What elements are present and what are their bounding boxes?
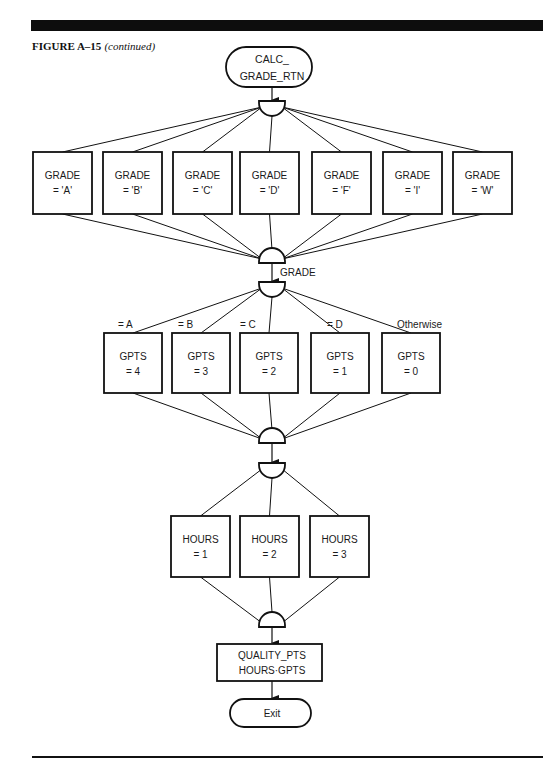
split-junction-gpts — [259, 282, 285, 297]
case-condition-label: = B — [178, 319, 194, 330]
case-branch-line — [282, 288, 411, 333]
exit-label: Exit — [264, 708, 281, 719]
grade-check-box — [33, 152, 92, 214]
case-merge-line — [133, 393, 262, 439]
gpts-value: = 2 — [262, 366, 277, 377]
branch-line — [282, 107, 413, 152]
gpts-box — [104, 333, 162, 393]
case-condition-label: = D — [327, 319, 343, 330]
hours-branch-line — [201, 469, 263, 516]
gpts-value: = 0 — [404, 366, 419, 377]
hours-branch-line — [282, 469, 340, 516]
grade-check-label: GRADE — [324, 170, 360, 181]
start-label-line2: GRADE_RTN — [240, 70, 305, 82]
hours-label: HOURS — [321, 534, 357, 545]
case-condition-label: Otherwise — [397, 319, 442, 330]
case-selector-label: GRADE — [280, 267, 316, 278]
case-branch-line — [269, 297, 272, 333]
hours-box — [240, 516, 299, 577]
grade-check-label: GRADE — [465, 170, 501, 181]
gpts-box — [172, 333, 230, 393]
hours-merge-line — [282, 577, 340, 623]
gpts-box — [382, 333, 440, 393]
grade-check-label: GRADE — [185, 170, 221, 181]
split-junction-hours — [259, 463, 285, 478]
grade-check-label: GRADE — [395, 170, 431, 181]
compute-label-line1: QUALITY_PTS — [238, 650, 306, 661]
merge-junction-grade-checks — [259, 248, 285, 263]
gpts-label: GPTS — [326, 351, 354, 362]
case-merge-line — [282, 393, 411, 439]
case-merge-line — [269, 393, 272, 430]
compute-label-line2: HOURS·GPTS — [239, 665, 306, 676]
hours-box — [171, 516, 230, 577]
merge-line — [133, 214, 263, 259]
gpts-value: = 4 — [126, 366, 141, 377]
hours-label: HOURS — [182, 534, 218, 545]
grade-check-box — [453, 152, 512, 214]
gpts-box — [311, 333, 369, 393]
grade-check-box — [383, 152, 442, 214]
merge-line — [270, 214, 273, 250]
grade-check-value: = 'C' — [193, 185, 213, 196]
grade-check-value: = 'F' — [332, 185, 351, 196]
flowchart: CALC_GRADE_RTNGRADE= 'A'GRADE= 'B'GRADE=… — [0, 0, 543, 766]
hours-value: = 3 — [332, 549, 347, 560]
case-condition-label: = C — [240, 319, 256, 330]
grade-check-box — [312, 152, 371, 214]
merge-junction-hours — [259, 612, 285, 627]
hours-value: = 1 — [193, 549, 208, 560]
grade-check-box — [173, 152, 232, 214]
grade-check-value: = 'A' — [53, 185, 72, 196]
grade-check-value: = 'D' — [260, 185, 280, 196]
grade-check-box — [103, 152, 162, 214]
branch-line — [133, 107, 263, 152]
branch-line — [270, 116, 273, 152]
grade-check-value: = 'I' — [405, 185, 420, 196]
merge-line — [282, 214, 413, 259]
gpts-box — [240, 333, 298, 393]
hours-label: HOURS — [251, 534, 287, 545]
hours-box — [310, 516, 369, 577]
hours-branch-line — [270, 478, 273, 516]
hours-merge-line — [270, 577, 273, 612]
gpts-label: GPTS — [397, 351, 425, 362]
case-merge-line — [282, 393, 340, 439]
hours-value: = 2 — [262, 549, 277, 560]
grade-check-label: GRADE — [45, 170, 81, 181]
split-junction-grade-checks — [259, 101, 285, 116]
case-condition-label: = A — [118, 319, 133, 330]
hours-merge-line — [201, 577, 263, 623]
grade-check-value: = 'W' — [472, 185, 494, 196]
grade-check-box — [240, 152, 299, 214]
gpts-value: = 1 — [333, 366, 348, 377]
gpts-label: GPTS — [187, 351, 215, 362]
start-label-line1: CALC_ — [255, 53, 289, 65]
gpts-label: GPTS — [119, 351, 147, 362]
gpts-value: = 3 — [194, 366, 209, 377]
gpts-label: GPTS — [255, 351, 283, 362]
merge-junction-gpts — [259, 428, 285, 443]
grade-check-value: = 'B' — [123, 185, 142, 196]
grade-check-label: GRADE — [115, 170, 151, 181]
case-merge-line — [201, 393, 262, 439]
grade-check-label: GRADE — [252, 170, 288, 181]
